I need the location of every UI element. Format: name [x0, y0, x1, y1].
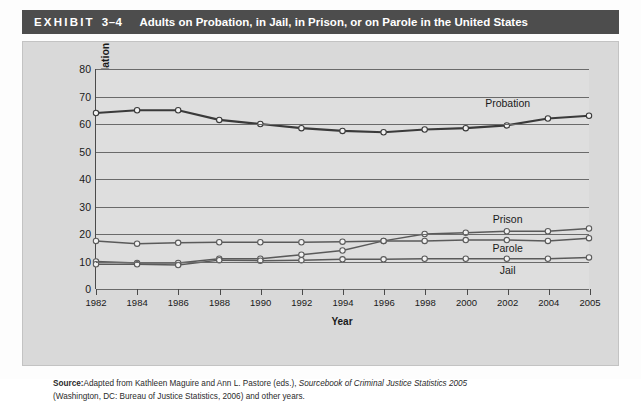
- x-tick-label-2005: 2005: [579, 297, 600, 308]
- data-point-parole-1994: [340, 239, 345, 244]
- data-point-probation-2004: [545, 116, 550, 121]
- x-tick-label-1992: 1992: [291, 297, 312, 308]
- y-tick-label-50: 50: [79, 146, 91, 158]
- x-tick-2004: [549, 289, 550, 295]
- chart-panel: Percent of Total Correctional Population…: [22, 41, 619, 366]
- source-text-b: (Washington, DC: Bureau of Justice Stati…: [53, 392, 305, 401]
- gridline-80: [96, 69, 589, 70]
- x-tick-1992: [302, 289, 303, 295]
- source-label: Source:: [53, 379, 83, 388]
- x-tick-label-2000: 2000: [456, 297, 477, 308]
- gridline-40: [96, 179, 589, 180]
- data-point-prison-2005: [586, 226, 591, 231]
- data-point-parole-2005: [586, 235, 591, 240]
- gridline-20: [96, 234, 589, 235]
- data-point-parole-1986: [175, 240, 180, 245]
- x-tick-label-1984: 1984: [127, 297, 148, 308]
- x-tick-label-1998: 1998: [415, 297, 436, 308]
- data-point-jail-2005: [586, 255, 591, 260]
- data-point-parole-1990: [258, 240, 263, 245]
- series-label-prison: Prison: [493, 213, 523, 225]
- exhibit-header-band: EXHIBIT 3–4 Adults on Probation, in Jail…: [22, 10, 619, 34]
- gridline-10: [96, 262, 589, 263]
- source-note: Source:Adapted from Kathleen Maguire and…: [53, 378, 523, 403]
- series-label-parole: Parole: [492, 242, 522, 254]
- exhibit-title: Adults on Probation, in Jail, in Prison,…: [139, 16, 527, 28]
- x-tick-label-1986: 1986: [168, 297, 189, 308]
- x-tick-label-2004: 2004: [538, 297, 559, 308]
- plot-area: 0102030405060708019821984198619881990199…: [95, 69, 589, 289]
- y-tick-label-70: 70: [79, 91, 91, 103]
- x-tick-label-1988: 1988: [209, 297, 230, 308]
- x-tick-label-1994: 1994: [332, 297, 353, 308]
- y-tick-label-10: 10: [79, 256, 91, 268]
- x-tick-1996: [384, 289, 385, 295]
- data-point-probation-2000: [463, 125, 468, 130]
- data-point-prison-1994: [340, 248, 345, 253]
- x-tick-1986: [178, 289, 179, 295]
- y-tick-label-0: 0: [85, 283, 91, 295]
- x-tick-1998: [425, 289, 426, 295]
- x-tick-2002: [508, 289, 509, 295]
- x-tick-2000: [467, 289, 468, 295]
- series-label-jail: Jail: [500, 264, 516, 276]
- source-title-italic: Sourcebook of Criminal Justice Statistic…: [299, 379, 467, 388]
- data-point-probation-1992: [299, 125, 304, 130]
- data-point-probation-1988: [217, 117, 222, 122]
- data-point-probation-1994: [340, 128, 345, 133]
- x-tick-1982: [96, 289, 97, 295]
- exhibit-number: 3–4: [102, 16, 123, 28]
- y-tick-label-20: 20: [79, 228, 91, 240]
- x-axis-title: Year: [95, 316, 589, 327]
- x-tick-1984: [137, 289, 138, 295]
- x-tick-label-1990: 1990: [250, 297, 271, 308]
- gridline-60: [96, 124, 589, 125]
- data-point-parole-2004: [545, 238, 550, 243]
- x-tick-label-2002: 2002: [497, 297, 518, 308]
- x-tick-1988: [220, 289, 221, 295]
- data-point-parole-1982: [93, 238, 98, 243]
- data-point-parole-1988: [217, 240, 222, 245]
- gridline-30: [96, 207, 589, 208]
- data-point-probation-1998: [422, 127, 427, 132]
- data-point-parole-1998: [422, 238, 427, 243]
- y-tick-label-60: 60: [79, 118, 91, 130]
- data-point-probation-1984: [134, 108, 139, 113]
- data-point-jail-1986: [175, 262, 180, 267]
- y-tick-label-40: 40: [79, 173, 91, 185]
- data-point-parole-1984: [134, 241, 139, 246]
- x-tick-1994: [343, 289, 344, 295]
- x-tick-1990: [261, 289, 262, 295]
- data-point-parole-2000: [463, 237, 468, 242]
- gridline-50: [96, 152, 589, 153]
- y-tick-label-30: 30: [79, 201, 91, 213]
- data-point-probation-1986: [175, 108, 180, 113]
- data-point-parole-1996: [381, 238, 386, 243]
- x-tick-2005: [590, 289, 591, 295]
- x-tick-label-1982: 1982: [85, 297, 106, 308]
- data-point-parole-1992: [299, 240, 304, 245]
- exhibit-word: EXHIBIT: [34, 16, 95, 28]
- source-text-a: Adapted from Kathleen Maguire and Ann L.…: [83, 379, 298, 388]
- data-point-probation-1996: [381, 130, 386, 135]
- y-tick-label-80: 80: [79, 63, 91, 75]
- x-tick-label-1996: 1996: [374, 297, 395, 308]
- series-label-probation: Probation: [485, 97, 530, 109]
- data-point-probation-1982: [93, 110, 98, 115]
- data-point-probation-2005: [586, 113, 591, 118]
- data-point-prison-1992: [299, 252, 304, 257]
